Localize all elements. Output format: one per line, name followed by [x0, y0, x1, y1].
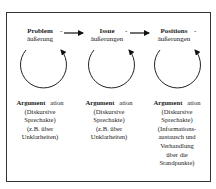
caption-problem-suffix: ation	[50, 99, 63, 106]
caption-issue-line: Sprechakte)	[78, 116, 140, 125]
header-issue-title: Issue	[86, 27, 128, 35]
caption-positions-line: austausch und	[146, 133, 208, 142]
caption-positions-bold: Argument	[153, 99, 182, 106]
header-positions-sub: äußerungen	[152, 35, 196, 43]
caption-positions-line: Sprechakte)	[146, 116, 208, 125]
header-issue: Issue äußerungen	[86, 27, 128, 43]
caption-positions-line: über die	[146, 151, 208, 160]
caption-issue-bold: Argument	[85, 99, 114, 106]
caption-issue-suffix: ation	[119, 99, 132, 106]
caption-positions-line: Standpunkte)	[146, 159, 208, 168]
header-problem-dash: -	[60, 27, 62, 35]
cycle-arrow-problem	[20, 50, 66, 88]
caption-positions-line: (Diskursive	[146, 108, 208, 117]
cycle-arrow-positions	[155, 50, 201, 88]
caption-issue-line: Unklarheiten)	[78, 133, 140, 142]
caption-problem-line: (z.B. über	[9, 125, 71, 134]
caption-problem-bold: Argument	[16, 99, 45, 106]
caption-issue-line: (Diskursive	[78, 108, 140, 117]
caption-problem-line: (Diskursive	[9, 108, 71, 117]
header-issue-dash: -	[125, 27, 127, 35]
caption-issue: Argument ation (Diskursive Sprechakte) (…	[78, 99, 140, 142]
caption-positions: Argument ation (Diskursive Sprechakte) (…	[146, 99, 208, 168]
caption-positions-line: Verhandlung	[146, 142, 208, 151]
caption-problem-line: Unklarheiten)	[9, 133, 71, 142]
caption-problem: Argument ation (Diskursive Sprechakte) (…	[9, 99, 71, 142]
caption-positions-line: (Informations-	[146, 125, 208, 134]
caption-problem-line: Sprechakte)	[9, 116, 71, 125]
header-problem-sub: äußerung	[22, 35, 58, 43]
header-problem: Problem äußerung	[22, 27, 58, 43]
caption-issue-line: (z.B. über	[78, 125, 140, 134]
header-issue-sub: äußerungen	[86, 35, 128, 43]
header-positions-dash: -	[194, 27, 196, 35]
header-positions-title: Positions	[152, 27, 196, 35]
caption-positions-suffix: ation	[187, 99, 200, 106]
header-problem-title: Problem	[22, 27, 58, 35]
cycle-arrow-issue	[88, 50, 134, 88]
header-positions: Positions äußerungen	[152, 27, 196, 43]
